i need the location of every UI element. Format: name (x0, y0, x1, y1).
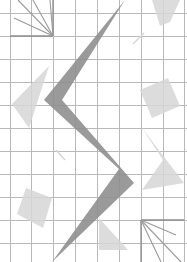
diagram-canvas (0, 0, 187, 262)
